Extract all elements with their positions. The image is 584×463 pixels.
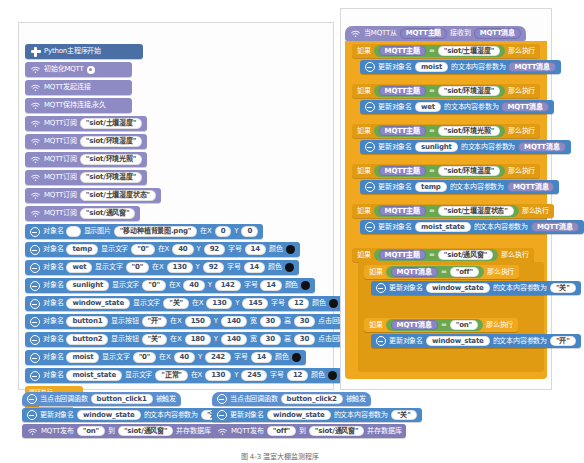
mqtt-connect-block[interactable]: MQTT发起连接 xyxy=(25,80,132,95)
mqtt-topic-variable[interactable]: MQTT主题 xyxy=(379,126,426,137)
display-text-block[interactable]: 对象名 moist 显示文字 "0" 在X 40 Y 242 字号 14 颜色 xyxy=(25,350,306,365)
object-name-field[interactable]: button2 xyxy=(66,334,108,345)
mqtt-subscribe-block[interactable]: MQTT订阅 "siot/土壤湿度" xyxy=(25,116,147,131)
mqtt-message-variable[interactable]: MQTT消息 xyxy=(474,28,521,39)
mqtt-message-variable[interactable]: MQTT消息 xyxy=(501,102,548,113)
object-name-field[interactable]: window_state xyxy=(426,336,490,347)
topic-value-field[interactable]: "siot/环境温度" xyxy=(438,166,500,177)
display-image-block[interactable]: 对象名 显示图片 "移动种植背景图.png" 在X 0 Y 0 xyxy=(25,224,263,239)
font-size-field[interactable]: 14 xyxy=(244,262,265,273)
mqtt-subscribe-block[interactable]: MQTT订阅 "siot/环境光照" xyxy=(25,152,147,167)
button-text-field[interactable]: "关" xyxy=(142,334,168,345)
display-text-block[interactable]: 对象名 temp 显示文字 "0" 在X 40 Y 92 字号 14 颜色 xyxy=(25,242,300,257)
width-field[interactable]: 30 xyxy=(260,316,281,327)
button-callback-hat-block[interactable]: 当点击回调函数 button_click2 被触发 xyxy=(212,392,371,406)
mqtt-topic-variable[interactable]: MQTT主题 xyxy=(379,250,426,261)
topic-value-field[interactable]: "siot/土壤湿度状态" xyxy=(438,206,514,217)
compare-block[interactable]: MQTT主题 = "siot/土壤湿度" xyxy=(374,45,505,57)
mqtt-subscribe-block[interactable]: MQTT订阅 "siot/通风窗" xyxy=(25,206,140,221)
update-object-text-block[interactable]: 更新对象名 moist_state 的文本内容参数为 MQTT消息 xyxy=(360,220,584,234)
message-value-field[interactable]: "on" xyxy=(450,320,478,331)
update-object-text-block[interactable]: 更新对象名 moist 的文本内容参数为 MQTT消息 xyxy=(360,60,561,74)
x-field[interactable]: 0 xyxy=(215,226,232,237)
text-field[interactable]: "正常" xyxy=(155,370,188,381)
mqtt-message-variable[interactable]: MQTT消息 xyxy=(508,62,555,73)
object-name-field[interactable]: window_state xyxy=(426,283,490,294)
mqtt-message-variable[interactable]: MQTT消息 xyxy=(518,142,565,153)
if-block-header[interactable]: 如果 MQTT主题 = "siot/环境温度" 那么执行 xyxy=(352,164,540,178)
mqtt-publish-block[interactable]: MQTT发布 "off" 到 "siot/通风窗" 并存数据库 xyxy=(212,424,406,438)
color-swatch[interactable] xyxy=(286,245,295,254)
update-object-text-block[interactable]: 更新对象名 sunlight 的文本内容参数为 MQTT消息 xyxy=(360,140,571,154)
mqtt-publish-block[interactable]: MQTT发布 "on" 到 "siot/通风窗" 并存数据库 xyxy=(22,424,215,438)
text-field[interactable]: "0" xyxy=(142,280,166,291)
mqtt-receive-hat-block[interactable]: 当MQTT从 MQTT主题 接收到 MQTT消息 xyxy=(345,26,526,41)
display-text-block[interactable]: 对象名 window_state 显示文字 "关" 在X 130 Y 145 字… xyxy=(25,296,343,311)
x-field[interactable]: 150 xyxy=(185,316,211,327)
y-field[interactable]: 145 xyxy=(242,298,268,309)
display-text-block[interactable]: 对象名 sunlight 显示文字 "0" 在X 40 Y 142 字号 14 … xyxy=(25,278,315,293)
topic-field[interactable]: "siot/环境光照" xyxy=(80,154,142,165)
update-object-text-block[interactable]: 更新对象名 window_state 的文本内容参数为 "开" xyxy=(22,408,232,422)
topic-field[interactable]: "siot/通风窗" xyxy=(309,426,365,437)
compare-block[interactable]: MQTT消息 = "on" xyxy=(386,319,483,331)
y-field[interactable]: 142 xyxy=(215,280,241,291)
object-name-field[interactable]: wet xyxy=(415,102,441,113)
mqtt-message-variable[interactable]: MQTT消息 xyxy=(391,320,438,331)
y-field[interactable]: 140 xyxy=(221,334,247,345)
mqtt-subscribe-block[interactable]: MQTT订阅 "siot/环境温度" xyxy=(25,170,147,185)
message-value-field[interactable]: "off" xyxy=(450,267,479,278)
update-object-text-block[interactable]: 更新对象名 wet 的文本内容参数为 MQTT消息 xyxy=(360,100,554,114)
font-size-field[interactable]: 14 xyxy=(245,244,266,255)
display-text-block[interactable]: 对象名 moist_state 显示文字 "正常" 在X 130 Y 245 字… xyxy=(25,368,342,383)
callback-name-field[interactable]: button_click2 xyxy=(281,394,343,405)
mqtt-init-block[interactable]: 初始化MQTT xyxy=(25,62,132,77)
text-value-field[interactable]: "开" xyxy=(550,336,576,347)
object-name-field[interactable]: moist xyxy=(415,62,448,73)
x-field[interactable]: 130 xyxy=(205,370,231,381)
message-field[interactable]: "off" xyxy=(267,426,296,437)
text-field[interactable]: "0" xyxy=(126,262,150,273)
nested-if-block-header[interactable]: 如果 MQTT消息 = "off" 那么执行 xyxy=(364,265,519,279)
height-field[interactable]: 30 xyxy=(294,316,315,327)
object-name-field[interactable]: window_state xyxy=(77,410,141,421)
text-value-field[interactable]: "关" xyxy=(391,410,417,421)
y-field[interactable]: 0 xyxy=(241,226,258,237)
message-field[interactable]: "on" xyxy=(77,426,105,437)
width-field[interactable]: 30 xyxy=(260,334,281,345)
mqtt-topic-variable[interactable]: MQTT主题 xyxy=(400,28,447,39)
object-name-field[interactable]: sunlight xyxy=(415,142,458,153)
display-text-block[interactable]: 对象名 wet 显示文字 "0" 在X 130 Y 92 字号 14 颜色 xyxy=(25,260,299,275)
x-field[interactable]: 40 xyxy=(172,244,193,255)
update-object-text-block[interactable]: 更新对象名 temp 的文本内容参数为 MQTT消息 xyxy=(360,180,559,194)
x-field[interactable]: 180 xyxy=(185,334,211,345)
compare-block[interactable]: MQTT消息 = "off" xyxy=(386,266,484,278)
mqtt-message-variable[interactable]: MQTT消息 xyxy=(531,222,578,233)
if-block-header[interactable]: 如果 MQTT主题 = "siot/土壤湿度状态" 那么执行 xyxy=(352,204,554,218)
color-swatch[interactable] xyxy=(301,281,310,290)
compare-block[interactable]: MQTT主题 = "siot/环境温度" xyxy=(374,165,505,177)
callback-name-field[interactable]: button_click1 xyxy=(91,394,153,405)
mqtt-topic-variable[interactable]: MQTT主题 xyxy=(379,46,426,57)
x-field[interactable]: 40 xyxy=(183,280,204,291)
topic-value-field[interactable]: "siot/通风窗" xyxy=(438,250,494,261)
mqtt-subscribe-block[interactable]: MQTT订阅 "siot/环境湿度" xyxy=(25,134,147,149)
compare-block[interactable]: MQTT主题 = "siot/通风窗" xyxy=(374,249,499,261)
color-swatch[interactable] xyxy=(328,371,337,380)
compare-block[interactable]: MQTT主题 = "siot/土壤湿度状态" xyxy=(374,205,519,217)
topic-field[interactable]: "siot/环境温度" xyxy=(80,172,142,183)
object-name-field[interactable]: temp xyxy=(415,182,447,193)
mqtt-keepalive-block[interactable]: MQTT保持连接,永久 xyxy=(25,98,132,113)
image-file-field[interactable]: "移动种植背景图.png" xyxy=(114,226,197,237)
x-field[interactable]: 130 xyxy=(206,298,232,309)
topic-field[interactable]: "siot/土壤湿度状态" xyxy=(80,190,156,201)
text-field[interactable]: "关" xyxy=(163,298,189,309)
y-field[interactable]: 92 xyxy=(204,244,225,255)
font-size-field[interactable]: 12 xyxy=(287,370,308,381)
topic-field[interactable]: "siot/通风窗" xyxy=(118,426,174,437)
mqtt-message-variable[interactable]: MQTT消息 xyxy=(507,182,554,193)
text-field[interactable]: "0" xyxy=(133,352,157,363)
python-start-block[interactable]: Python主程序开始 xyxy=(25,44,143,59)
compare-block[interactable]: MQTT主题 = "siot/环境湿度" xyxy=(374,85,505,97)
topic-value-field[interactable]: "siot/环境光照" xyxy=(438,126,500,137)
